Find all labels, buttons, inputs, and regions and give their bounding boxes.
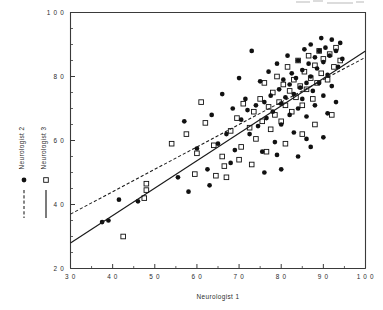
data-point-square (169, 141, 174, 146)
data-point-circle (304, 81, 309, 86)
y-tick-label: 8 0 (54, 73, 65, 80)
data-point-square (300, 132, 305, 137)
data-point-circle (262, 100, 267, 105)
legend-marker-circle (22, 178, 27, 183)
data-point-circle (239, 117, 244, 122)
data-point-circle (287, 113, 292, 118)
data-point-square (285, 65, 290, 70)
legend-label: Neurologist 3 (40, 127, 48, 170)
data-point-square (199, 100, 204, 105)
data-point-square (283, 141, 288, 146)
data-point-square (258, 97, 263, 102)
scan-artifact (356, 1, 364, 3)
data-point-circle (277, 87, 282, 92)
data-point-circle (296, 58, 301, 63)
data-point-circle (302, 47, 307, 52)
data-point-circle (310, 89, 315, 94)
data-point-circle (243, 97, 248, 102)
data-point-square (252, 109, 257, 114)
data-point-circle (266, 69, 271, 74)
y-tick-label: 2 0 (54, 265, 65, 272)
data-point-circle (262, 170, 267, 175)
data-point-circle (275, 61, 280, 66)
data-point-circle (294, 76, 299, 81)
data-point-square (237, 157, 242, 162)
data-point-circle (207, 183, 212, 188)
data-point-circle (304, 114, 309, 119)
data-point-circle (292, 130, 297, 135)
x-tick-label: 5 0 (149, 273, 160, 280)
y-tick-label: 1 0 0 (47, 9, 65, 16)
data-point-circle (334, 49, 339, 54)
data-point-circle (329, 84, 334, 89)
data-point-square (332, 65, 337, 70)
data-point-square (249, 162, 254, 167)
data-point-circle (245, 108, 250, 113)
data-point-square (241, 101, 246, 106)
x-tick-label: 4 0 (107, 273, 118, 280)
data-point-circle (313, 55, 318, 60)
data-point-square (193, 172, 198, 177)
data-point-circle (338, 41, 343, 46)
y-tick-label: 4 0 (54, 201, 65, 208)
y-tick-label: 6 0 (54, 137, 65, 144)
data-point-square (222, 164, 227, 169)
data-point-circle (117, 197, 122, 202)
scan-artifact (313, 0, 323, 2)
data-point-circle (279, 167, 284, 172)
data-point-square (313, 122, 318, 127)
data-point-square (268, 127, 273, 132)
data-point-square (264, 149, 269, 154)
data-point-circle (281, 77, 286, 82)
data-point-circle (287, 82, 292, 87)
data-point-circle (230, 106, 235, 111)
data-point-circle (315, 66, 320, 71)
data-point-circle (247, 132, 252, 137)
data-point-circle (325, 111, 330, 116)
data-point-circle (319, 36, 324, 41)
data-point-circle (296, 154, 301, 159)
data-point-square (184, 132, 189, 137)
data-point-circle (300, 97, 305, 102)
data-point-square (239, 145, 244, 150)
data-point-circle (321, 60, 326, 65)
data-point-square (311, 97, 316, 102)
data-point-square (281, 82, 286, 87)
data-point-circle (249, 49, 254, 54)
legend-marker-square (44, 178, 49, 183)
data-point-circle (256, 124, 261, 129)
scan-artifact (296, 1, 310, 3)
data-point-square (220, 154, 225, 159)
data-point-circle (275, 153, 280, 158)
x-tick-label: 1 0 0 (357, 273, 375, 280)
data-point-circle (268, 93, 273, 98)
data-point-square (306, 53, 311, 58)
x-tick-label: 9 0 (318, 273, 329, 280)
x-tick-label: 3 0 (65, 273, 76, 280)
data-point-circle (228, 161, 233, 166)
data-point-circle (304, 137, 309, 142)
data-point-circle (300, 68, 305, 73)
data-point-square (203, 121, 208, 126)
x-tick-label: 6 0 (191, 273, 202, 280)
data-point-circle (306, 61, 311, 66)
data-point-circle (220, 92, 225, 97)
x-tick-label: 8 0 (276, 273, 287, 280)
data-point-square (195, 151, 200, 156)
data-point-circle (233, 148, 238, 153)
data-point-circle (186, 189, 191, 194)
data-point-circle (334, 100, 339, 105)
data-point-circle (285, 53, 290, 58)
data-point-circle (323, 45, 328, 50)
data-point-circle (308, 42, 313, 47)
data-point-circle (254, 103, 259, 108)
data-point-square (300, 103, 305, 108)
data-point-square (121, 234, 126, 239)
data-point-square (319, 71, 324, 76)
data-point-square (235, 116, 240, 121)
data-point-circle (224, 132, 229, 137)
data-point-circle (313, 103, 318, 108)
x-axis-title: Neurologist 1 (197, 293, 240, 301)
data-point-circle (298, 85, 303, 90)
data-point-square (325, 77, 330, 82)
